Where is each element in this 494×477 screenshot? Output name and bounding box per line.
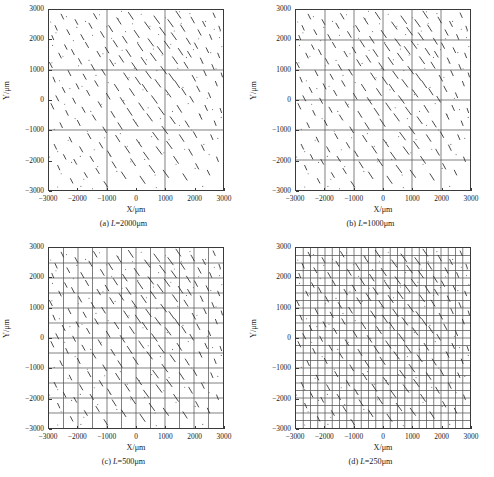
y-tick-mark	[49, 368, 52, 369]
y-tick-label: 1000	[8, 304, 44, 311]
figure-container: −3000−2000−10000100020003000−3000−2000−1…	[0, 0, 494, 477]
x-tick-label: −1000	[344, 195, 363, 202]
x-tick-mark	[224, 188, 225, 191]
x-tick-mark	[224, 426, 225, 429]
x-tick-label: −2000	[68, 195, 87, 202]
y-tick-mark	[296, 368, 299, 369]
x-tick-mark	[295, 426, 296, 429]
x-tick-label: −2000	[315, 195, 334, 202]
x-tick-mark	[48, 188, 49, 191]
y-tick-label: 0	[255, 96, 291, 103]
plot-area-c	[48, 247, 224, 429]
x-tick-mark	[295, 188, 296, 191]
x-tick-label: −2000	[68, 433, 87, 440]
y-tick-label: −2000	[8, 395, 44, 402]
y-tick-label: 3000	[255, 5, 291, 12]
y-tick-mark	[296, 130, 299, 131]
y-tick-mark	[296, 70, 299, 71]
x-tick-mark	[412, 188, 413, 191]
panel-caption-c: (c) L=500μm	[0, 457, 247, 466]
data-traces-b	[296, 10, 470, 190]
y-tick-label: −1000	[8, 127, 44, 134]
x-tick-label: 2000	[434, 433, 449, 440]
x-tick-mark	[354, 188, 355, 191]
panel-a: −3000−2000−10000100020003000−3000−2000−1…	[0, 0, 247, 238]
y-tick-mark	[49, 9, 52, 10]
y-tick-label: 2000	[8, 274, 44, 281]
y-tick-mark	[296, 277, 299, 278]
y-tick-label: 2000	[8, 36, 44, 43]
x-tick-label: 1000	[405, 195, 420, 202]
y-tick-mark	[296, 161, 299, 162]
panel-c: −3000−2000−10000100020003000−3000−2000−1…	[0, 238, 247, 476]
y-tick-label: 2000	[255, 274, 291, 281]
panel-caption-b: (b) L=1000μm	[247, 219, 494, 228]
y-tick-mark	[49, 338, 52, 339]
y-tick-mark	[296, 247, 299, 248]
x-tick-mark	[383, 426, 384, 429]
x-axis-label-c: X/μm	[48, 443, 224, 452]
x-axis-label-d: X/μm	[295, 443, 471, 452]
x-axis-label-b: X/μm	[295, 205, 471, 214]
x-tick-mark	[324, 188, 325, 191]
plot-area-b	[295, 9, 471, 191]
x-tick-mark	[471, 426, 472, 429]
panel-d: −3000−2000−10000100020003000−3000−2000−1…	[247, 238, 494, 476]
caption-symbol-L: L	[358, 219, 363, 228]
x-tick-mark	[136, 426, 137, 429]
y-tick-mark	[296, 9, 299, 10]
x-tick-label: −2000	[315, 433, 334, 440]
plot-area-a	[48, 9, 224, 191]
x-tick-mark	[165, 188, 166, 191]
y-tick-mark	[49, 39, 52, 40]
y-axis-label-b: Y/μm	[249, 81, 258, 100]
x-tick-label: −3000	[286, 195, 305, 202]
x-tick-label: 3000	[217, 195, 232, 202]
x-tick-label: 3000	[464, 195, 479, 202]
y-tick-label: 2000	[255, 36, 291, 43]
y-tick-mark	[49, 308, 52, 309]
y-tick-mark	[296, 39, 299, 40]
y-tick-label: 0	[8, 334, 44, 341]
y-axis-label-c: Y/μm	[2, 319, 11, 338]
y-tick-label: 3000	[255, 243, 291, 250]
plot-area-d	[295, 247, 471, 429]
x-tick-mark	[442, 426, 443, 429]
x-tick-mark	[324, 426, 325, 429]
x-tick-mark	[195, 426, 196, 429]
x-tick-label: −3000	[286, 433, 305, 440]
x-tick-label: −1000	[97, 195, 116, 202]
data-traces-c	[49, 248, 223, 428]
x-tick-label: 0	[134, 433, 138, 440]
data-traces-a	[49, 10, 223, 190]
y-tick-mark	[296, 399, 299, 400]
panel-caption-d: (d) L=250μm	[247, 457, 494, 466]
y-tick-mark	[49, 277, 52, 278]
y-tick-label: 0	[255, 334, 291, 341]
panel-b: −3000−2000−10000100020003000−3000−2000−1…	[247, 0, 494, 238]
x-tick-label: 0	[134, 195, 138, 202]
x-tick-label: −3000	[39, 195, 58, 202]
x-tick-label: 0	[381, 195, 385, 202]
x-tick-mark	[383, 188, 384, 191]
x-tick-mark	[77, 188, 78, 191]
data-traces-d	[296, 248, 470, 428]
y-tick-label: 0	[8, 96, 44, 103]
x-tick-label: 2000	[187, 195, 202, 202]
x-tick-label: 2000	[187, 433, 202, 440]
y-tick-mark	[296, 191, 299, 192]
y-tick-label: −2000	[8, 157, 44, 164]
y-tick-mark	[49, 70, 52, 71]
x-tick-mark	[107, 426, 108, 429]
x-tick-label: 2000	[434, 195, 449, 202]
y-axis-label-a: Y/μm	[2, 81, 11, 100]
x-tick-label: −1000	[97, 433, 116, 440]
y-tick-mark	[49, 191, 52, 192]
x-tick-mark	[471, 188, 472, 191]
x-tick-mark	[77, 426, 78, 429]
x-tick-label: 3000	[464, 433, 479, 440]
y-tick-mark	[49, 429, 52, 430]
x-tick-label: −1000	[344, 433, 363, 440]
x-tick-mark	[136, 188, 137, 191]
y-tick-mark	[49, 161, 52, 162]
